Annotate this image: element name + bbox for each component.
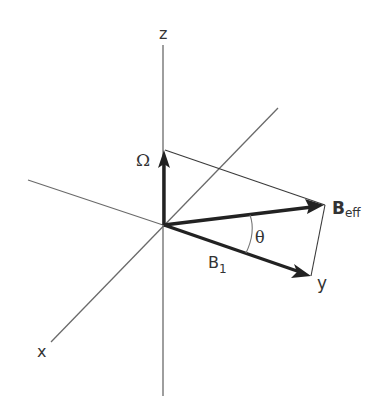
y-axis-label: y bbox=[317, 273, 327, 293]
beff-vector bbox=[164, 207, 312, 225]
omega-label: Ω bbox=[136, 150, 150, 170]
b1-label: B1 bbox=[208, 253, 227, 276]
z-axis-label: z bbox=[159, 24, 167, 43]
theta-label: θ bbox=[255, 228, 265, 247]
b1-label-sub: 1 bbox=[219, 262, 227, 276]
beff-label-main: B bbox=[332, 198, 345, 218]
b1-label-main: B bbox=[208, 253, 219, 272]
omega-to-beff-line bbox=[165, 150, 325, 205]
x-axis-label: x bbox=[37, 342, 46, 361]
beff-to-y-line bbox=[311, 205, 325, 276]
theta-arc bbox=[246, 215, 252, 253]
beff-label: Beff bbox=[332, 198, 361, 220]
b1-vector bbox=[164, 225, 300, 272]
y-axis-back bbox=[28, 180, 163, 225]
beff-label-sub: eff bbox=[345, 206, 361, 220]
vector-diagram: z x y Ω Beff B1 θ bbox=[0, 0, 384, 411]
